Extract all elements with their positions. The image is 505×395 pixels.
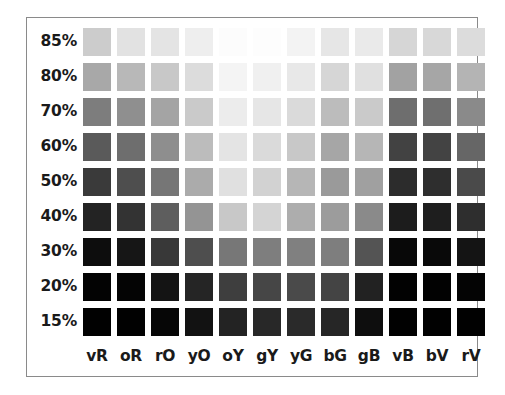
swatch-yG-60[interactable] [287,133,315,161]
swatch-vR-15[interactable] [83,308,111,336]
swatch-bG-70[interactable] [321,98,349,126]
swatch-vR-70[interactable] [83,98,111,126]
swatch-yG-70[interactable] [287,98,315,126]
swatch-yO-40[interactable] [185,203,213,231]
swatch-yO-60[interactable] [185,133,213,161]
swatch-oY-15[interactable] [219,308,247,336]
swatch-bG-40[interactable] [321,203,349,231]
swatch-oR-30[interactable] [117,238,145,266]
swatch-oR-15[interactable] [117,308,145,336]
swatch-yO-85[interactable] [185,28,213,56]
swatch-yO-70[interactable] [185,98,213,126]
swatch-yG-15[interactable] [287,308,315,336]
swatch-oY-60[interactable] [219,133,247,161]
swatch-gY-20[interactable] [253,273,281,301]
swatch-bG-85[interactable] [321,28,349,56]
swatch-bV-60[interactable] [423,133,451,161]
swatch-vB-80[interactable] [389,63,417,91]
swatch-oY-85[interactable] [219,28,247,56]
swatch-vR-85[interactable] [83,28,111,56]
swatch-oY-80[interactable] [219,63,247,91]
swatch-rV-40[interactable] [457,203,485,231]
swatch-vB-40[interactable] [389,203,417,231]
swatch-gB-30[interactable] [355,238,383,266]
swatch-vB-50[interactable] [389,168,417,196]
swatch-vB-70[interactable] [389,98,417,126]
swatch-rV-20[interactable] [457,273,485,301]
swatch-vB-85[interactable] [389,28,417,56]
swatch-rV-85[interactable] [457,28,485,56]
swatch-gB-40[interactable] [355,203,383,231]
swatch-rV-15[interactable] [457,308,485,336]
swatch-yG-80[interactable] [287,63,315,91]
swatch-bV-85[interactable] [423,28,451,56]
swatch-gY-50[interactable] [253,168,281,196]
swatch-rO-80[interactable] [151,63,179,91]
swatch-bG-50[interactable] [321,168,349,196]
swatch-gB-85[interactable] [355,28,383,56]
swatch-vB-20[interactable] [389,273,417,301]
swatch-gY-15[interactable] [253,308,281,336]
swatch-rO-40[interactable] [151,203,179,231]
swatch-oR-40[interactable] [117,203,145,231]
swatch-oR-60[interactable] [117,133,145,161]
swatch-yO-50[interactable] [185,168,213,196]
swatch-rO-50[interactable] [151,168,179,196]
swatch-oY-40[interactable] [219,203,247,231]
swatch-gY-60[interactable] [253,133,281,161]
swatch-rO-20[interactable] [151,273,179,301]
swatch-yO-80[interactable] [185,63,213,91]
swatch-oY-30[interactable] [219,238,247,266]
swatch-gB-15[interactable] [355,308,383,336]
swatch-bV-15[interactable] [423,308,451,336]
swatch-gB-70[interactable] [355,98,383,126]
swatch-bG-60[interactable] [321,133,349,161]
swatch-yG-40[interactable] [287,203,315,231]
swatch-yO-15[interactable] [185,308,213,336]
swatch-bV-30[interactable] [423,238,451,266]
swatch-gB-20[interactable] [355,273,383,301]
swatch-bV-80[interactable] [423,63,451,91]
swatch-rV-80[interactable] [457,63,485,91]
swatch-vR-20[interactable] [83,273,111,301]
swatch-oR-20[interactable] [117,273,145,301]
swatch-vR-30[interactable] [83,238,111,266]
swatch-vR-80[interactable] [83,63,111,91]
swatch-oR-80[interactable] [117,63,145,91]
swatch-gY-40[interactable] [253,203,281,231]
swatch-vB-15[interactable] [389,308,417,336]
swatch-rO-15[interactable] [151,308,179,336]
swatch-gY-85[interactable] [253,28,281,56]
swatch-rV-50[interactable] [457,168,485,196]
swatch-bG-15[interactable] [321,308,349,336]
swatch-oY-20[interactable] [219,273,247,301]
swatch-gY-70[interactable] [253,98,281,126]
swatch-yG-20[interactable] [287,273,315,301]
swatch-bG-20[interactable] [321,273,349,301]
swatch-oR-70[interactable] [117,98,145,126]
swatch-bV-20[interactable] [423,273,451,301]
swatch-bV-50[interactable] [423,168,451,196]
swatch-vB-30[interactable] [389,238,417,266]
swatch-rV-60[interactable] [457,133,485,161]
swatch-yG-50[interactable] [287,168,315,196]
swatch-gY-30[interactable] [253,238,281,266]
swatch-gB-80[interactable] [355,63,383,91]
swatch-bG-30[interactable] [321,238,349,266]
swatch-vB-60[interactable] [389,133,417,161]
swatch-rO-70[interactable] [151,98,179,126]
swatch-yO-30[interactable] [185,238,213,266]
swatch-oY-70[interactable] [219,98,247,126]
swatch-rO-60[interactable] [151,133,179,161]
swatch-yO-20[interactable] [185,273,213,301]
swatch-rO-30[interactable] [151,238,179,266]
swatch-yG-85[interactable] [287,28,315,56]
swatch-bV-70[interactable] [423,98,451,126]
swatch-vR-40[interactable] [83,203,111,231]
swatch-bV-40[interactable] [423,203,451,231]
swatch-gB-60[interactable] [355,133,383,161]
swatch-bG-80[interactable] [321,63,349,91]
swatch-vR-50[interactable] [83,168,111,196]
swatch-rV-70[interactable] [457,98,485,126]
swatch-gY-80[interactable] [253,63,281,91]
